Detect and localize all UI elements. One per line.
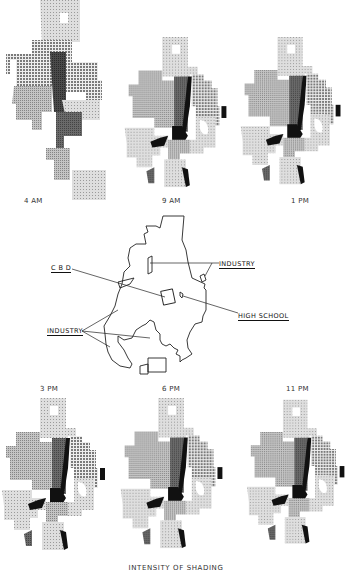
panel-label-3pm: 3 PM xyxy=(40,385,58,393)
legend-title: INTENSITY OF SHADING xyxy=(0,564,352,572)
city-map-1pm xyxy=(240,37,348,192)
city-map-9am xyxy=(124,37,234,195)
callout-high-school: HIGH SCHOOL xyxy=(238,312,289,321)
city-map-9am-graphic xyxy=(124,37,234,195)
key-map-outline xyxy=(0,210,352,380)
city-map-6pm xyxy=(120,398,230,556)
city-map-1pm-graphic xyxy=(240,37,348,192)
callout-cbd: C B D xyxy=(51,264,71,273)
city-map-4am xyxy=(2,0,114,200)
callout-industry-left: INDUSTRY xyxy=(47,327,83,336)
city-map-11pm xyxy=(247,398,351,553)
panel-label-11pm: 11 PM xyxy=(286,385,309,393)
callout-industry-top: INDUSTRY xyxy=(219,260,255,269)
city-map-11pm-graphic xyxy=(247,398,351,553)
city-map-3pm xyxy=(2,398,112,558)
city-map-3pm-graphic xyxy=(2,398,112,558)
panel-label-4am: 4 AM xyxy=(24,197,43,205)
panel-label-9am: 9 AM xyxy=(162,197,181,205)
panel-label-6pm: 6 PM xyxy=(162,385,180,393)
city-map-4am-graphic xyxy=(2,0,114,200)
city-map-6pm-graphic xyxy=(120,398,230,556)
leader-high-school xyxy=(183,296,238,313)
key-map xyxy=(0,210,352,380)
panel-label-1pm: 1 PM xyxy=(291,197,309,205)
